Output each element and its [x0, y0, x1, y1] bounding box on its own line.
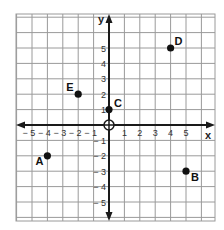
grid-lines	[16, 14, 215, 221]
x-tick-label: − 2	[69, 128, 82, 138]
point-d	[167, 44, 174, 51]
x-tick-label: − 4	[38, 128, 51, 138]
y-axis-bottom-arrow-icon	[106, 212, 113, 221]
y-axis-label: y	[98, 13, 105, 25]
point-label-b: B	[191, 171, 199, 183]
y-tick-label: − 1	[93, 136, 106, 146]
y-tick-label: 3	[101, 74, 106, 84]
y-axis-top-arrow-icon	[106, 14, 113, 23]
x-tick-label: − 3	[53, 128, 66, 138]
y-tick-label: 5	[101, 44, 106, 54]
y-tick-label: 2	[101, 90, 106, 100]
x-tick-label: 5	[183, 128, 188, 138]
x-tick-label: 1	[122, 128, 127, 138]
point-e	[75, 91, 82, 98]
point-a	[44, 152, 51, 159]
y-tick-label: 4	[101, 59, 106, 69]
point-label-c: C	[114, 97, 122, 109]
coordinate-plane: xy − 5− 4− 3− 2− 11234554321− 1− 2− 3− 4…	[0, 0, 224, 230]
grid-border	[16, 14, 215, 221]
x-axis-right-arrow-icon	[206, 122, 215, 129]
x-tick-label: 4	[168, 128, 173, 138]
x-tick-label: 3	[153, 128, 158, 138]
y-tick-label: 1	[101, 105, 106, 115]
y-tick-label: − 3	[93, 167, 106, 177]
x-tick-label: 2	[137, 128, 142, 138]
y-tick-label: − 5	[93, 198, 106, 208]
point-label-e: E	[66, 81, 73, 93]
point-label-d: D	[175, 35, 183, 47]
y-tick-label: − 2	[93, 151, 106, 161]
point-label-a: A	[35, 155, 43, 167]
x-tick-label: − 5	[23, 128, 36, 138]
y-tick-label: − 4	[93, 182, 106, 192]
axes: xy	[16, 13, 215, 221]
point-c	[105, 106, 112, 113]
point-b	[182, 168, 189, 175]
x-axis-label: x	[205, 129, 212, 141]
